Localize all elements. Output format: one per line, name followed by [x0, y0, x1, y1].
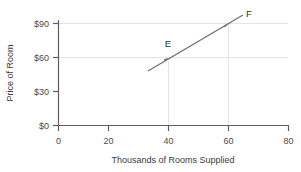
chart-svg: $90 $60 $30 $0 0 20 40 60 80 E F Thousan… — [0, 0, 301, 172]
y-tick-label-90: $90 — [34, 19, 49, 29]
y-axis-ticks — [53, 24, 59, 126]
supply-curve-chart: $90 $60 $30 $0 0 20 40 60 80 E F Thousan… — [0, 0, 301, 172]
x-tick-label-20: 20 — [103, 136, 113, 146]
x-tick-label-80: 80 — [283, 136, 293, 146]
gridlines — [58, 24, 288, 58]
y-tick-label-30: $30 — [34, 87, 49, 97]
point-label-f: F — [246, 8, 252, 19]
point-label-e: E — [165, 38, 171, 49]
droplines — [169, 24, 229, 126]
point-labels: E F — [165, 8, 252, 49]
y-tick-label-60: $60 — [34, 53, 49, 63]
x-tick-label-40: 40 — [163, 136, 173, 146]
x-tick-label-60: 60 — [223, 136, 233, 146]
x-tick-label-0: 0 — [56, 136, 61, 146]
x-axis-tick-labels: 0 20 40 60 80 — [56, 136, 294, 146]
x-axis-title: Thousands of Rooms Supplied — [111, 155, 234, 165]
x-axis-ticks — [59, 126, 289, 132]
y-tick-label-0: $0 — [39, 121, 49, 131]
axes — [58, 20, 289, 126]
y-axis-title: Price of Room — [5, 44, 15, 101]
arrow-marker-f — [224, 24, 229, 28]
y-axis-tick-labels: $90 $60 $30 $0 — [34, 19, 49, 131]
